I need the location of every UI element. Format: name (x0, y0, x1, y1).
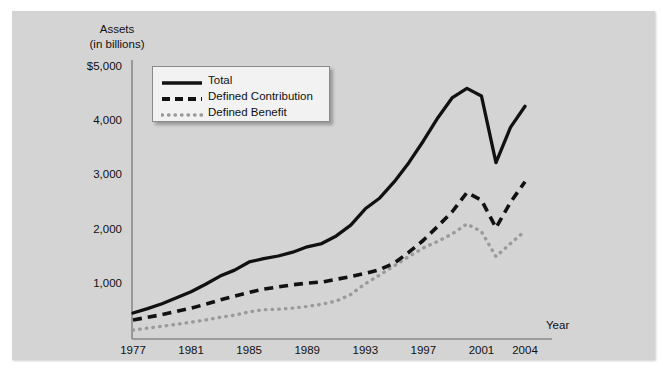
legend-label: Defined Benefit (208, 106, 287, 118)
legend-swatch-solid (161, 74, 203, 85)
series-group (133, 88, 525, 330)
x-tick-label: 1989 (284, 344, 330, 356)
x-axis-title: Year (546, 318, 586, 333)
legend-label: Total (208, 74, 232, 86)
legend-swatch-dashed (161, 90, 203, 101)
legend-label: Defined Contribution (208, 90, 313, 102)
chart-figure: Assets (in billions) Year $5,0004,0003,0… (0, 0, 663, 374)
y-tick-label: 1,000 (62, 277, 122, 289)
x-tick-label: 1977 (110, 344, 156, 356)
legend-item: Defined Contribution (161, 88, 329, 103)
x-tick-label: 2004 (502, 344, 548, 356)
y-axis-title-line1: Assets (72, 22, 162, 37)
y-axis-title-line2: (in billions) (72, 37, 162, 52)
x-tick-label: 1981 (168, 344, 214, 356)
x-tick-label: 1997 (400, 344, 446, 356)
series-line-defined-contribution (133, 182, 525, 320)
chart-legend: TotalDefined ContributionDefined Benefit (152, 66, 330, 122)
legend-item: Total (161, 72, 329, 87)
y-tick-label: 4,000 (62, 114, 122, 126)
y-tick-label: 3,000 (62, 168, 122, 180)
x-tick-label: 1993 (342, 344, 388, 356)
y-axis-title: Assets (in billions) (72, 22, 162, 52)
y-tick-label: 2,000 (62, 223, 122, 235)
x-tick-label: 1985 (226, 344, 272, 356)
y-tick-label: $5,000 (62, 60, 122, 72)
x-tick-label: 2001 (458, 344, 504, 356)
legend-swatch-dotted (161, 106, 203, 117)
legend-item: Defined Benefit (161, 104, 329, 119)
